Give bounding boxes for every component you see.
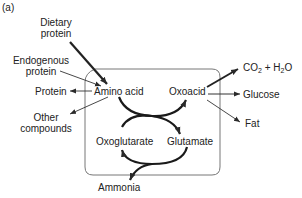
arrow-oxoacid-to-co2 (207, 69, 238, 87)
arrow-to-ammonia (130, 164, 152, 180)
arrow-oxoglutarate-to-glutamate (122, 115, 180, 134)
label-co: CO (243, 62, 258, 73)
panel-label: (a) (2, 2, 14, 13)
label-fat: Fat (245, 118, 259, 129)
label-ammonia: Ammonia (98, 182, 140, 193)
label-amino-acid: Amino acid (94, 86, 143, 97)
label-oxoglutarate: Oxoglutarate (96, 136, 153, 147)
label-oxoacid: Oxoacid (169, 86, 206, 97)
label-glutamate: Glutamate (167, 136, 213, 147)
label-glucose: Glucose (243, 89, 280, 100)
label-sub-2b: 2 (281, 67, 285, 74)
label-sub-2a: 2 (258, 67, 262, 74)
label-dietary-line1: Dietary (31, 17, 81, 28)
label-protein: Protein (35, 86, 67, 97)
diagram-amino-acid-metabolism: (a) Dietary protein Endogenous protein P… (0, 0, 302, 198)
arrow-glutamate-to-oxoglutarate (122, 147, 187, 164)
label-co2-h2o: CO2 + H2O (243, 62, 292, 74)
arrow-amino-to-other (70, 97, 108, 114)
arrow-amino-to-oxoacid (119, 97, 186, 116)
arrow-dietary-to-amino (70, 42, 107, 84)
label-dietary-line2: protein (31, 28, 81, 39)
label-endogenous-line1: Endogenous (11, 55, 71, 66)
arrow-oxoacid-to-fat (207, 100, 240, 122)
label-dietary-protein: Dietary protein (31, 17, 81, 39)
label-other-line1: Other (17, 112, 75, 123)
label-plus-h: + H (262, 62, 281, 73)
label-other-line2: compounds (17, 123, 75, 134)
label-o: O (284, 62, 292, 73)
label-endogenous-protein: Endogenous protein (11, 55, 71, 77)
label-other-compounds: Other compounds (17, 112, 75, 134)
compartment-box (85, 69, 220, 175)
label-endogenous-line2: protein (11, 66, 71, 77)
